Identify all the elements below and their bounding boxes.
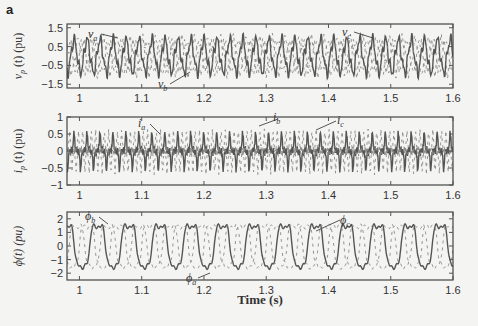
x-tick-label: 1 [76, 284, 82, 296]
y-tick-label: −1 [50, 179, 63, 191]
x-tick-label: 1.2 [196, 92, 211, 104]
curve-label: ib [273, 110, 280, 126]
y-axis-label: ϕ(t) (pu) [11, 226, 25, 267]
leader-line [170, 72, 190, 84]
curve-label: ϕa [186, 271, 196, 287]
subplot-3: 11.11.21.31.41.51.6210−1−2ϕ(t) (pu) [11, 212, 461, 296]
curve-label: ϕc [340, 213, 350, 229]
y-tick-label: −2 [50, 267, 63, 279]
y-axis-label: ip (t) (pu) [11, 129, 27, 174]
leader-line [101, 34, 118, 38]
x-tick-label: 1.6 [445, 284, 460, 296]
y-tick-label: −0.5 [41, 59, 63, 71]
x-tick-label: 1.2 [196, 284, 211, 296]
y-tick-label: 0 [57, 240, 63, 252]
x-tick-label: 1.4 [321, 189, 336, 201]
y-tick-label: −1 [50, 254, 63, 266]
x-tick-label: 1.1 [134, 92, 149, 104]
leader-line [316, 121, 336, 130]
y-tick-label: 0 [57, 145, 63, 157]
x-tick-label: 1.1 [134, 284, 149, 296]
y-tick-label: −1.5 [41, 78, 63, 90]
x-tick-label: 1.3 [259, 92, 274, 104]
subplot-2: 11.11.21.31.41.51.610.50−0.5−1ip (t) (pu… [11, 111, 461, 201]
x-tick-label: 1.2 [196, 189, 211, 201]
x-tick-label: 1.5 [383, 189, 398, 201]
y-tick-label: 1.5 [48, 22, 63, 34]
axes-box [67, 212, 453, 280]
x-tick-label: 1.5 [383, 284, 398, 296]
x-tick-label: 1.5 [383, 92, 398, 104]
x-tick-label: 1 [76, 92, 82, 104]
x-tick-label: 1.4 [321, 92, 336, 104]
leader-line [99, 217, 108, 224]
x-tick-label: 1.4 [321, 284, 336, 296]
x-tick-label: 1 [76, 189, 82, 201]
curve-label: va [88, 27, 97, 43]
curve-label: vc [342, 25, 351, 41]
x-tick-label: 1.6 [445, 92, 460, 104]
x-tick-label: 1.6 [445, 189, 460, 201]
y-tick-label: 2 [57, 213, 63, 225]
figure: a 11.11.21.31.41.51.61.50.5−0.5−1.5vp (t… [0, 0, 478, 326]
y-tick-label: −0.5 [41, 162, 63, 174]
x-tick-label: 1.1 [134, 189, 149, 201]
subplot-1: 11.11.21.31.41.51.61.50.5−0.5−1.5vp (t) … [11, 22, 461, 104]
axes-box [67, 24, 453, 88]
y-tick-label: 1 [57, 111, 63, 123]
curve-label: vb [158, 77, 167, 93]
series-line [67, 131, 453, 173]
x-axis-label: Time (s) [237, 292, 283, 307]
curve-label: ic [337, 113, 344, 129]
leader-line [354, 32, 373, 38]
curve-label: ϕb [85, 209, 95, 225]
y-axis-label: vp (t) (pu) [11, 33, 27, 80]
y-tick-label: 0.5 [48, 41, 63, 53]
y-tick-label: 1 [57, 226, 63, 238]
chart-canvas: 11.11.21.31.41.51.61.50.5−0.5−1.5vp (t) … [0, 0, 478, 326]
y-tick-label: 0.5 [48, 128, 63, 140]
x-tick-label: 1.3 [259, 189, 274, 201]
